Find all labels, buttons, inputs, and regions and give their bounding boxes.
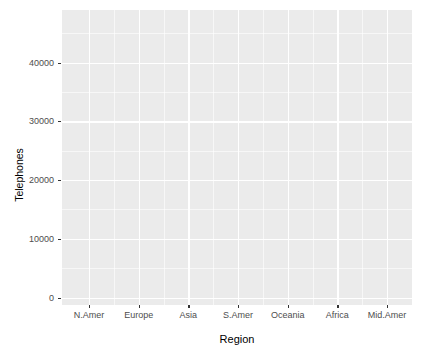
gridline-major-horizontal <box>62 239 412 240</box>
gridline-minor-vertical <box>114 10 115 305</box>
y-axis-title: Telephones <box>13 148 25 202</box>
x-tick-label: S.Amer <box>223 310 253 320</box>
x-tick-label: N.Amer <box>74 310 105 320</box>
gridline-minor-vertical <box>263 10 264 305</box>
gridline-major-vertical <box>288 10 289 305</box>
y-tick-mark <box>58 63 61 64</box>
y-tick-label: 30000 <box>29 116 54 126</box>
x-tick-label: Europe <box>124 310 153 320</box>
x-tick-mark <box>288 305 289 308</box>
gridline-major-vertical <box>337 10 338 305</box>
gridline-minor-horizontal <box>62 151 412 152</box>
gridline-major-horizontal <box>62 298 412 299</box>
x-axis-title: Region <box>220 333 255 345</box>
gridline-major-vertical <box>387 10 388 305</box>
gridline-major-horizontal <box>62 121 412 122</box>
plot-panel <box>62 10 412 305</box>
y-tick-mark <box>58 298 61 299</box>
y-tick-label: 20000 <box>29 175 54 185</box>
gridline-major-vertical <box>238 10 239 305</box>
x-tick-mark <box>188 305 189 308</box>
x-tick-mark <box>238 305 239 308</box>
x-tick-label: Africa <box>326 310 349 320</box>
gridline-minor-vertical <box>313 10 314 305</box>
y-tick-label: 0 <box>49 293 54 303</box>
gridline-minor-vertical <box>362 10 363 305</box>
gridline-minor-horizontal <box>62 33 412 34</box>
y-tick-label: 10000 <box>29 234 54 244</box>
gridline-major-horizontal <box>62 180 412 181</box>
x-tick-label: Asia <box>180 310 198 320</box>
x-tick-mark <box>337 305 338 308</box>
gridline-major-vertical <box>139 10 140 305</box>
gridline-major-vertical <box>188 10 189 305</box>
gridline-major-horizontal <box>62 63 412 64</box>
gridline-major-vertical <box>89 10 90 305</box>
y-tick-mark <box>58 180 61 181</box>
x-tick-mark <box>89 305 90 308</box>
gridline-minor-vertical <box>213 10 214 305</box>
gridline-minor-horizontal <box>62 209 412 210</box>
x-tick-mark <box>139 305 140 308</box>
gridline-minor-horizontal <box>62 92 412 93</box>
y-tick-label: 40000 <box>29 58 54 68</box>
y-tick-mark <box>58 239 61 240</box>
x-tick-mark <box>387 305 388 308</box>
x-tick-label: Oceania <box>271 310 305 320</box>
chart-figure: 40000 30000 20000 10000 0 N.Amer Europe … <box>0 0 426 359</box>
y-tick-mark <box>58 121 61 122</box>
gridline-minor-horizontal <box>62 268 412 269</box>
gridline-minor-vertical <box>164 10 165 305</box>
x-tick-label: Mid.Amer <box>368 310 407 320</box>
